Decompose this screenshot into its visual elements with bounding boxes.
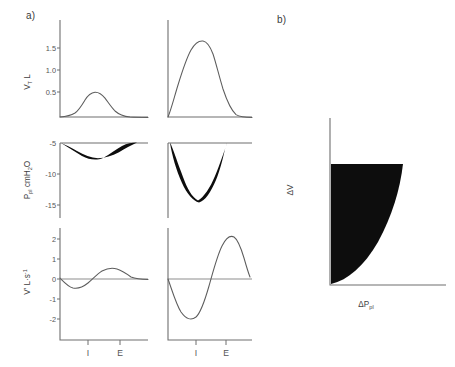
chart-flow-left: I E bbox=[57, 228, 148, 358]
pressure-right-loop bbox=[170, 143, 227, 203]
respiratory-mechanics-figure: a) b) VT L 1.5 1.0 0.5 bbox=[0, 0, 455, 367]
flow-left-curve bbox=[60, 268, 148, 288]
flow-left-xtick-I: I bbox=[87, 348, 89, 358]
pressure-left-loop bbox=[61, 143, 137, 160]
chart-volume-left bbox=[57, 20, 148, 117]
pressure-ytick-minus15: -15 bbox=[45, 201, 56, 210]
chart-pressure-left bbox=[57, 143, 148, 218]
volume-right-curve bbox=[168, 41, 252, 117]
pv-loop-xlabel: ΔPpl bbox=[358, 300, 373, 310]
volume-axis-title: VT L bbox=[23, 74, 33, 90]
pressure-ytick-minus5: -5 bbox=[49, 139, 56, 148]
flow-right-xtick-E: E bbox=[223, 348, 229, 358]
pv-loop-area bbox=[331, 164, 403, 284]
chart-volume-right bbox=[168, 20, 252, 117]
flow-right-xtick-I: I bbox=[195, 348, 197, 358]
pressure-axis-title: Ppl cmH2O bbox=[23, 161, 33, 199]
flow-ytick-minus2: -2 bbox=[49, 315, 56, 324]
chart-pressure-right bbox=[168, 143, 252, 218]
flow-ytick-1: 1 bbox=[52, 255, 56, 264]
flow-axis-title: V' L·s-1 bbox=[22, 269, 32, 295]
row-volume: VT L 1.5 1.0 0.5 bbox=[23, 20, 252, 117]
figure-canvas: VT L 1.5 1.0 0.5 Ppl cmH2O -5 -1 bbox=[0, 0, 455, 367]
volume-ytick-0.5: 0.5 bbox=[46, 88, 56, 97]
flow-right-curve bbox=[168, 236, 250, 319]
volume-left-curve bbox=[60, 92, 148, 117]
row-flow: V' L·s-1 2 1 0 -1 -2 I E bbox=[22, 228, 252, 358]
chart-flow-right: I E bbox=[168, 228, 252, 358]
pv-loop-ylabel: ΔV bbox=[286, 184, 295, 195]
panel-b-label: b) bbox=[277, 14, 286, 25]
flow-ytick-minus1: -1 bbox=[49, 295, 56, 304]
panel-a-label: a) bbox=[26, 10, 35, 21]
flow-ytick-2: 2 bbox=[52, 235, 56, 244]
chart-pv-loop: ΔV ΔPpl bbox=[286, 118, 446, 310]
flow-ytick-0: 0 bbox=[52, 275, 56, 284]
volume-ytick-1.5: 1.5 bbox=[46, 44, 56, 53]
volume-ytick-1.0: 1.0 bbox=[46, 66, 56, 75]
row-pleural-pressure: Ppl cmH2O -5 -10 -15 bbox=[23, 139, 252, 218]
flow-left-xtick-E: E bbox=[117, 348, 123, 358]
pressure-ytick-minus10: -10 bbox=[45, 170, 56, 179]
